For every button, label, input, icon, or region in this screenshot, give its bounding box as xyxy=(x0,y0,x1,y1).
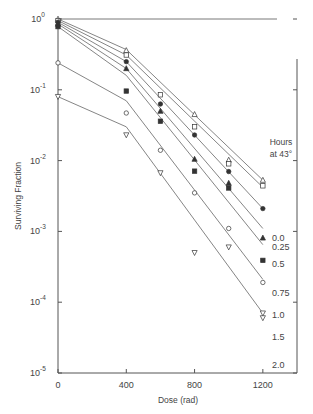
data-point xyxy=(227,186,231,190)
fit-lines xyxy=(58,19,263,313)
y-tick-label: 10-1 xyxy=(30,82,46,95)
axis-ticks: 0400800120010010-110-210-310-410-5 xyxy=(30,11,297,390)
data-point xyxy=(261,206,265,210)
data-point xyxy=(124,133,129,138)
fit-line xyxy=(58,97,263,314)
data-point xyxy=(158,171,163,176)
fit-line xyxy=(58,27,263,245)
series-label: 0.25 xyxy=(272,242,290,252)
y-tick-label: 100 xyxy=(31,11,45,24)
fit-line xyxy=(58,19,263,180)
data-point xyxy=(261,280,265,284)
data-point xyxy=(260,235,265,240)
y-tick-label: 10-3 xyxy=(30,223,46,236)
x-tick-label: 400 xyxy=(119,380,134,390)
plot-frame xyxy=(58,19,297,373)
data-point xyxy=(260,316,265,321)
x-tick-label: 800 xyxy=(187,380,202,390)
series-label: 0.5 xyxy=(272,259,285,269)
data-point xyxy=(227,226,231,230)
y-axis-label: Surviving Fraction xyxy=(13,162,23,230)
data-point xyxy=(56,61,60,65)
data-point xyxy=(124,89,128,93)
data-point xyxy=(192,125,196,129)
series-labels: 0.00.250.50.751.01.52.0 xyxy=(272,233,290,370)
data-point xyxy=(261,184,265,188)
data-point xyxy=(55,94,60,99)
data-point xyxy=(124,111,128,115)
data-point xyxy=(227,169,231,173)
data-point xyxy=(158,119,162,123)
data-point xyxy=(124,53,128,57)
data-point xyxy=(158,102,162,106)
data-point xyxy=(227,162,231,166)
fit-line xyxy=(58,22,263,208)
fit-line xyxy=(58,24,263,228)
series-label: 0.75 xyxy=(272,288,290,298)
data-point xyxy=(226,245,231,250)
data-point xyxy=(124,66,129,71)
y-tick-label: 10-2 xyxy=(30,153,46,166)
data-point xyxy=(192,133,196,137)
legend-title-line2: at 43° xyxy=(270,149,292,159)
data-point xyxy=(226,180,231,185)
data-point xyxy=(192,169,196,173)
data-markers xyxy=(55,16,265,321)
data-point xyxy=(192,251,197,256)
series-label: 2.0 xyxy=(272,360,285,370)
data-point xyxy=(261,258,265,262)
survival-chart: 0400800120010010-110-210-310-410-5 0.00.… xyxy=(0,0,313,414)
data-point xyxy=(158,148,162,152)
x-tick-label: 0 xyxy=(55,380,60,390)
data-point xyxy=(192,112,197,117)
series-label: 1.0 xyxy=(272,310,285,320)
data-point xyxy=(158,93,162,97)
data-point xyxy=(56,24,60,28)
y-tick-label: 10-4 xyxy=(30,294,46,307)
y-tick-label: 10-5 xyxy=(30,365,46,378)
x-axis-label: Dose (rad) xyxy=(158,395,198,405)
legend-title-line1: Hours xyxy=(270,137,293,147)
data-point xyxy=(260,311,265,316)
x-tick-label: 1200 xyxy=(253,380,273,390)
data-point xyxy=(192,156,197,161)
data-point xyxy=(192,191,196,195)
data-point xyxy=(124,59,128,63)
series-label: 1.5 xyxy=(272,332,285,342)
